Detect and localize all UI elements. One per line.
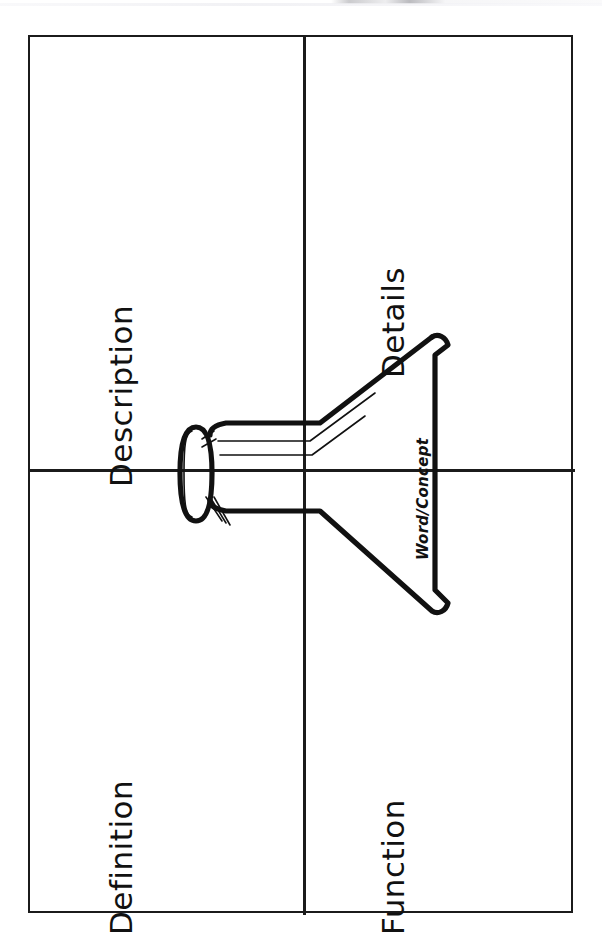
quadrant-label-function: Function <box>375 799 411 935</box>
worksheet-frame: Description Details Definition Function <box>28 35 573 913</box>
word-concept-label: Word/Concept <box>414 438 432 560</box>
quadrant-label-description: Description <box>103 305 139 487</box>
vertical-divider <box>303 37 306 915</box>
quadrant-label-definition: Definition <box>103 780 139 935</box>
scan-artifact-secondary <box>0 3 602 6</box>
quadrant-label-details: Details <box>375 267 411 378</box>
scan-artifact <box>0 0 602 4</box>
